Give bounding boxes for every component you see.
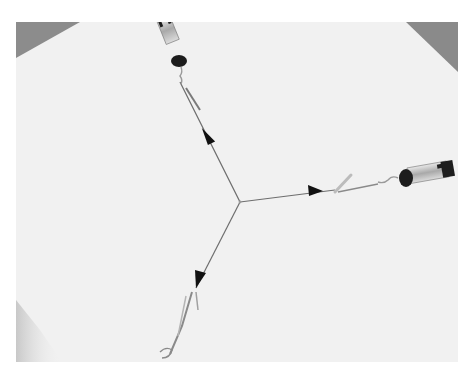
- paper-background: [16, 22, 458, 362]
- experiment-photo: [16, 22, 458, 362]
- photo-scene: [16, 22, 458, 362]
- junction-knot: [239, 201, 242, 204]
